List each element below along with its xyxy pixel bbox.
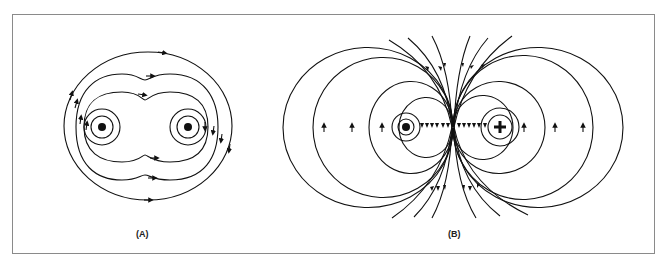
panel-label-a: (A) xyxy=(136,229,149,239)
conductor-dot-icon xyxy=(98,123,106,131)
conductor-dot-icon xyxy=(184,123,192,131)
field-diagram xyxy=(0,0,667,262)
conductor-dot-icon xyxy=(402,123,410,131)
panel-a xyxy=(64,52,232,200)
panel-label-b: (B) xyxy=(448,229,461,239)
panel-b xyxy=(283,36,623,218)
conductor-plus-icon xyxy=(494,121,506,133)
